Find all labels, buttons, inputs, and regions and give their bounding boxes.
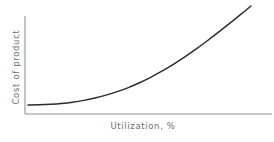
y-axis-label: Cost of product: [11, 19, 21, 115]
chart-figure: Cost of product Utilization, %: [0, 0, 274, 142]
cost-curve-line: [28, 6, 251, 105]
x-axis-label: Utilization, %: [0, 121, 274, 131]
